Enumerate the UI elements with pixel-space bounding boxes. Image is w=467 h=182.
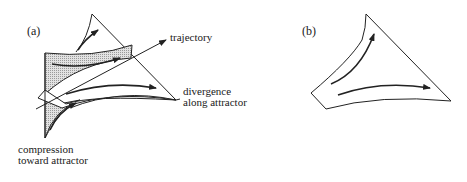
trajectory-label: trajectory bbox=[170, 32, 212, 43]
panel-a-sheet bbox=[38, 14, 176, 138]
compression-label-line2: toward attractor bbox=[18, 155, 88, 166]
panel-a-leaders bbox=[176, 99, 180, 100]
panel-a-label: (a) bbox=[27, 26, 40, 37]
panel-b-sheet bbox=[311, 14, 451, 109]
attractor-figure: (a) trajectory divergence along attracto… bbox=[0, 0, 467, 182]
panel-b-label: (b) bbox=[302, 26, 316, 37]
divergence-label-line2: along attractor bbox=[183, 97, 247, 108]
